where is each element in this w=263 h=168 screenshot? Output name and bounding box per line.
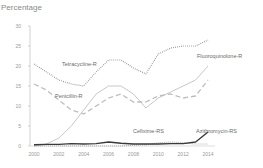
y-tick-label: 15 xyxy=(15,83,21,89)
label-azithromycin: Azithromycin-RS xyxy=(196,128,237,134)
series-labels: Tetracycline-R Fluoroquinolone-R Penicil… xyxy=(55,53,242,134)
x-tick-label: 2000 xyxy=(28,151,39,157)
label-penicillin: Penicillin-R xyxy=(55,93,83,99)
y-tick-label: 0 xyxy=(18,143,21,149)
y-tick-label: 30 xyxy=(15,23,21,29)
y-tick-label: 5 xyxy=(18,123,21,129)
x-tick-label: 2012 xyxy=(178,151,189,157)
x-tick-label: 2002 xyxy=(53,151,64,157)
y-tick-label: 20 xyxy=(15,63,21,69)
label-tetracycline: Tetracycline-R xyxy=(62,61,97,67)
y-tick-label: 25 xyxy=(15,43,21,49)
label-fluoroquinolone: Fluoroquinolone-R xyxy=(197,53,242,59)
y-tick-label: 10 xyxy=(15,103,21,109)
line-chart: 0510152025302000200220042006200820102012… xyxy=(0,0,263,168)
x-tick-label: 2014 xyxy=(202,151,213,157)
series-fluoroquinolone-r xyxy=(34,66,208,146)
x-tick-label: 2004 xyxy=(78,151,89,157)
label-cefixime: Cefixime-RS xyxy=(133,128,164,134)
x-tick-label: 2008 xyxy=(128,151,139,157)
x-tick-label: 2006 xyxy=(103,151,114,157)
series-tetracycline-r xyxy=(34,40,208,86)
x-tick-label: 2010 xyxy=(153,151,164,157)
